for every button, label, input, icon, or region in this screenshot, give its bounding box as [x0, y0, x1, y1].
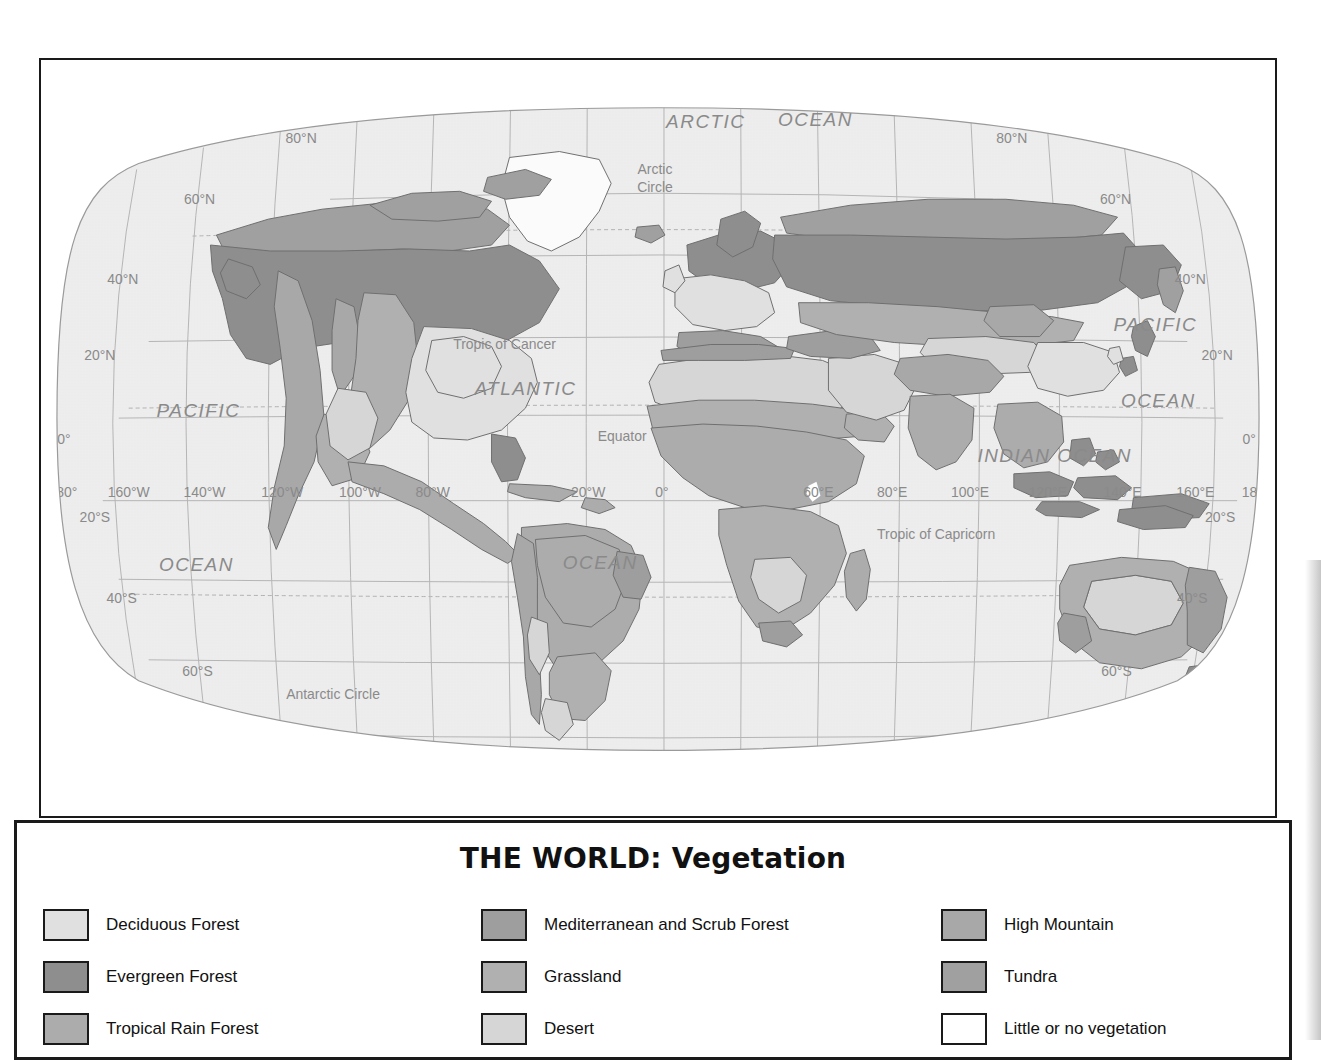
legend-item-grassland[interactable]: Grassland: [481, 951, 941, 1003]
longitude-label: 120°E: [1029, 484, 1067, 500]
longitude-label: 80°W: [416, 484, 451, 500]
longitude-label: 0°: [655, 484, 668, 500]
legend-item-label: Desert: [544, 1019, 594, 1039]
color-swatch: [43, 909, 89, 941]
longitude-label: 100°W: [339, 484, 382, 500]
color-swatch: [43, 1013, 89, 1045]
color-swatch: [941, 909, 987, 941]
latitude-label: 40°N: [1175, 271, 1206, 287]
color-swatch: [43, 961, 89, 993]
legend-item-high-mountain[interactable]: High Mountain: [941, 899, 1259, 951]
legend-item-label: Deciduous Forest: [106, 915, 239, 935]
color-swatch: [481, 909, 527, 941]
longitude-label: 120°W: [261, 484, 304, 500]
legend-item-label: Tundra: [1004, 967, 1057, 987]
legend-item-label: Mediterranean and Scrub Forest: [544, 915, 789, 935]
reference-line-label: Antarctic Circle: [286, 686, 380, 702]
reference-line-label: Tropic of Capricorn: [877, 526, 995, 542]
latitude-label: 20°S: [1205, 509, 1235, 525]
latitude-label: 40°S: [107, 590, 137, 606]
color-swatch: [941, 961, 987, 993]
color-swatch: [481, 1013, 527, 1045]
longitude-label: 80°E: [877, 484, 907, 500]
legend-item-mediterranean-and-scrub-forest[interactable]: Mediterranean and Scrub Forest: [481, 899, 941, 951]
ocean-label: INDIAN OCEAN: [977, 445, 1132, 466]
ocean-label: OCEAN: [159, 554, 234, 575]
latitude-label: 60°N: [184, 191, 215, 207]
longitude-label: 20°W: [571, 484, 606, 500]
reference-line-label: Tropic of Cancer: [453, 336, 556, 352]
latitude-label: 0°: [1242, 431, 1255, 447]
latitude-label: 40°N: [107, 271, 138, 287]
legend-item-tropical-rain-forest[interactable]: Tropical Rain Forest: [43, 1003, 481, 1055]
latitude-label: 60°S: [182, 663, 212, 679]
reference-line-label: Equator: [598, 428, 647, 444]
longitude-label: 160°E: [1176, 484, 1214, 500]
color-swatch: [941, 1013, 987, 1045]
legend-title: THE WORLD: Vegetation: [17, 842, 1289, 875]
longitude-label: 60°E: [803, 484, 833, 500]
ocean-label: PACIFIC: [1114, 314, 1198, 335]
longitude-label: 140°W: [183, 484, 226, 500]
legend-item-label: Grassland: [544, 967, 621, 987]
latitude-label: 0°: [57, 431, 70, 447]
latitude-label: 80°N: [286, 130, 317, 146]
latitude-label: 80°N: [996, 130, 1027, 146]
legend-item-little-or-no-vegetation[interactable]: Little or no vegetation: [941, 1003, 1259, 1055]
latitude-label: 40°S: [1177, 590, 1207, 606]
legend-item-label: Tropical Rain Forest: [106, 1019, 258, 1039]
ocean-label: ATLANTIC: [473, 378, 576, 399]
latitude-label: 60°N: [1100, 191, 1131, 207]
legend-item-label: High Mountain: [1004, 915, 1114, 935]
legend-item-evergreen-forest[interactable]: Evergreen Forest: [43, 951, 481, 1003]
ocean-label: PACIFIC: [157, 400, 241, 421]
ocean-label: OCEAN: [1121, 390, 1196, 411]
color-swatch: [481, 961, 527, 993]
legend-item-label: Little or no vegetation: [1004, 1019, 1167, 1039]
legend-column-3: High Mountain Tundra Little or no vegeta…: [941, 899, 1259, 1055]
page-edge-shadow: [1305, 560, 1321, 1040]
legend-columns: Deciduous Forest Evergreen Forest Tropic…: [17, 899, 1289, 1055]
latitude-label: 20°S: [80, 509, 110, 525]
latitude-label: 60°S: [1101, 663, 1131, 679]
reference-line-label: Arctic: [638, 161, 673, 177]
legend-panel: THE WORLD: Vegetation Deciduous Forest E…: [14, 820, 1292, 1060]
legend-item-deciduous-forest[interactable]: Deciduous Forest: [43, 899, 481, 951]
legend-item-desert[interactable]: Desert: [481, 1003, 941, 1055]
longitude-label: 140°E: [1103, 484, 1141, 500]
legend-item-tundra[interactable]: Tundra: [941, 951, 1259, 1003]
longitude-label: 100°E: [951, 484, 989, 500]
longitude-label: 160°W: [108, 484, 151, 500]
latitude-label: 20°N: [1202, 347, 1233, 363]
ocean-label: ARCTIC: [665, 111, 745, 132]
world-vegetation-map: ARCTICOCEANPACIFICOCEANATLANTICOCEANINDI…: [41, 60, 1275, 816]
ocean-label: OCEAN: [563, 552, 638, 573]
legend-column-2: Mediterranean and Scrub Forest Grassland…: [481, 899, 941, 1055]
latitude-label: 20°N: [84, 347, 115, 363]
legend-column-1: Deciduous Forest Evergreen Forest Tropic…: [43, 899, 481, 1055]
reference-line-label: Circle: [637, 179, 673, 195]
legend-item-label: Evergreen Forest: [106, 967, 237, 987]
map-panel: ARCTICOCEANPACIFICOCEANATLANTICOCEANINDI…: [39, 58, 1277, 818]
